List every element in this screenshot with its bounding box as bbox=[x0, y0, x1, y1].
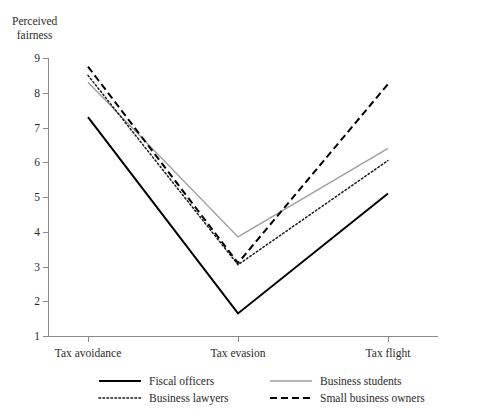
y-axis-title: Perceivedfairness bbox=[12, 14, 57, 42]
legend-item-fiscal-officers[interactable]: Fiscal officers bbox=[98, 372, 257, 389]
y-tick-label: 3 bbox=[34, 261, 40, 273]
y-tick-label: 6 bbox=[34, 156, 40, 168]
y-tick-label: 7 bbox=[34, 122, 40, 134]
legend-swatch-icon bbox=[98, 393, 142, 403]
series-line-fiscal-officers bbox=[88, 117, 388, 313]
legend-item-small-business-owners[interactable]: Small business owners bbox=[269, 389, 428, 406]
x-tick-label-0: Tax avoidance bbox=[55, 347, 122, 359]
y-tick-label: 8 bbox=[34, 87, 40, 99]
series-line-business-students bbox=[88, 82, 388, 237]
legend-swatch-icon bbox=[98, 376, 142, 386]
y-tick-label: 4 bbox=[34, 226, 40, 238]
series-lines bbox=[48, 58, 438, 340]
legend-label: Small business owners bbox=[320, 392, 425, 404]
y-tick-label: 2 bbox=[34, 295, 40, 307]
legend-item-business-lawyers[interactable]: Business lawyers bbox=[98, 389, 257, 406]
y-axis-title-line2: fairness bbox=[17, 29, 53, 41]
legend-swatch-icon bbox=[269, 376, 313, 386]
y-axis-title-line1: Perceived bbox=[12, 15, 57, 27]
legend-label: Business lawyers bbox=[149, 392, 229, 404]
chart-figure: Perceivedfairness 123456789 Tax avoidanc… bbox=[0, 0, 485, 419]
x-tick-label-2: Tax flight bbox=[366, 347, 411, 359]
legend-label: Business students bbox=[320, 375, 401, 387]
legend-swatch-icon bbox=[269, 393, 313, 403]
chart-legend: Fiscal officersBusiness studentsBusiness… bbox=[98, 372, 428, 406]
x-tick-label-1: Tax evasion bbox=[210, 347, 265, 359]
legend-label: Fiscal officers bbox=[149, 375, 214, 387]
y-tick-label: 5 bbox=[34, 191, 40, 203]
y-tick-label: 1 bbox=[34, 330, 40, 342]
plot-area: 123456789 Tax avoidanceTax evasionTax fl… bbox=[48, 58, 438, 340]
y-tick-label: 9 bbox=[34, 52, 40, 64]
series-line-small-business-owners bbox=[88, 67, 388, 263]
legend-item-business-students[interactable]: Business students bbox=[269, 372, 428, 389]
